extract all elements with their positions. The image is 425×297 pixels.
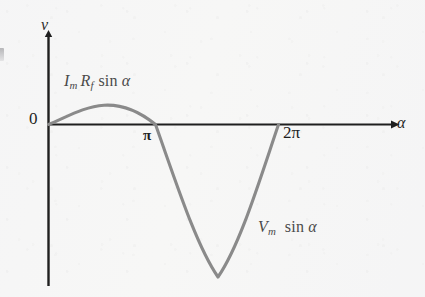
- curve-positive-half-sine: [49, 105, 156, 124]
- annotation-upper-var-r: R: [80, 72, 90, 89]
- x-tick-label-two-pi: 2π: [283, 124, 300, 141]
- origin-label: 0: [29, 110, 38, 127]
- annotation-lower-sub-m: m: [268, 225, 276, 237]
- annotation-lower-var-v: V: [258, 218, 268, 235]
- plot-canvas: [0, 0, 425, 297]
- annotation-upper-sub-f: f: [90, 79, 93, 91]
- x-axis-label: α: [397, 115, 405, 131]
- annotation-lower-sin: sin: [285, 218, 304, 235]
- y-axis-label: v: [41, 17, 48, 33]
- annotation-upper-equation: ImRfsinα: [64, 73, 130, 91]
- annotation-lower-alpha: α: [308, 218, 317, 235]
- figure-container: v 0 π 2π α ImRfsinα Vmsinα: [0, 0, 425, 297]
- annotation-lower-equation: Vmsinα: [258, 219, 317, 237]
- curve-negative-half-sine: [156, 125, 279, 278]
- annotation-upper-sub-m: m: [70, 79, 78, 91]
- annotation-upper-alpha: α: [122, 72, 131, 89]
- x-tick-label-pi: π: [143, 128, 151, 143]
- annotation-upper-sin: sin: [98, 72, 117, 89]
